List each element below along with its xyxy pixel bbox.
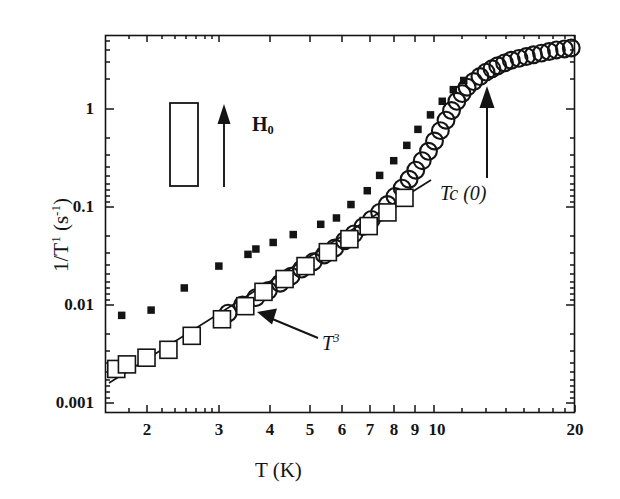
data-point bbox=[138, 349, 155, 366]
data-point bbox=[360, 218, 377, 235]
data-point bbox=[276, 271, 293, 288]
y-axis-unit-close: ) bbox=[49, 198, 73, 205]
x-tick-label-7: 7 bbox=[366, 420, 375, 440]
x-tick-label-6: 6 bbox=[338, 420, 347, 440]
t-cubed-annotation-arrow bbox=[257, 309, 318, 339]
x-axis-title: T (K) bbox=[255, 458, 302, 483]
tc-annotation-label: Tc (0) bbox=[440, 182, 486, 205]
y-tick-label-1: 1 bbox=[52, 99, 94, 119]
x-tick-label-20: 20 bbox=[567, 420, 584, 440]
t-cubed-base: T bbox=[322, 332, 333, 354]
data-point bbox=[289, 231, 297, 239]
x-tick-label-10: 10 bbox=[429, 420, 446, 440]
data-point bbox=[341, 231, 358, 248]
data-point bbox=[269, 239, 277, 247]
y-axis-title-main: 1/T bbox=[49, 243, 73, 272]
data-point bbox=[319, 244, 336, 261]
tc-annotation-arrow bbox=[480, 86, 495, 178]
inset-field-arrow-head bbox=[218, 104, 231, 124]
y-tick-label-0-001: 0.001 bbox=[8, 393, 94, 413]
t-cubed-exponent: 3 bbox=[333, 331, 339, 345]
data-point bbox=[438, 112, 455, 129]
field-label-subscript: 0 bbox=[268, 123, 274, 137]
data-point bbox=[118, 312, 126, 320]
x-tick-label-2: 2 bbox=[143, 420, 152, 440]
data-point bbox=[376, 172, 384, 180]
data-point bbox=[160, 341, 177, 358]
x-tick-label-3: 3 bbox=[215, 420, 224, 440]
field-annotation-label: H0 bbox=[252, 113, 274, 138]
data-point bbox=[237, 298, 254, 315]
data-point bbox=[414, 126, 422, 134]
inset-sample-rect bbox=[170, 103, 198, 186]
figure-panel: 2 3 4 5 6 7 8 9 10 20 1 0.1 0.01 0.001 1… bbox=[0, 0, 620, 499]
data-point bbox=[403, 142, 411, 150]
data-point bbox=[317, 221, 325, 229]
data-point bbox=[460, 77, 468, 85]
data-point bbox=[333, 214, 341, 222]
data-point bbox=[297, 258, 314, 275]
data-point bbox=[439, 98, 447, 106]
t-cubed-annotation-label: T3 bbox=[322, 331, 339, 355]
field-label-main: H bbox=[252, 113, 268, 135]
data-point bbox=[364, 187, 372, 195]
data-point bbox=[379, 204, 396, 221]
data-point bbox=[147, 306, 155, 314]
y-axis-title-superscript: 1 bbox=[48, 236, 63, 243]
data-point bbox=[244, 251, 252, 258]
data-point bbox=[252, 245, 260, 253]
inset-sample-geometry bbox=[170, 103, 231, 187]
data-point bbox=[181, 284, 189, 292]
data-point bbox=[347, 201, 355, 209]
data-point bbox=[255, 283, 272, 300]
y-axis-unit-open: (s bbox=[49, 216, 73, 236]
x-tick-label-8: 8 bbox=[390, 420, 399, 440]
data-point bbox=[215, 262, 223, 270]
data-point bbox=[396, 189, 413, 206]
x-tick-label-4: 4 bbox=[266, 420, 275, 440]
data-point bbox=[183, 327, 200, 344]
series-open-squares bbox=[108, 189, 413, 377]
data-point bbox=[390, 157, 398, 165]
data-point bbox=[213, 311, 230, 328]
y-axis-title: 1/T1 (s-1) bbox=[48, 140, 74, 330]
x-tick-label-9: 9 bbox=[411, 420, 420, 440]
y-axis-unit-superscript: -1 bbox=[48, 205, 63, 216]
data-point bbox=[118, 356, 135, 373]
data-point bbox=[427, 111, 435, 119]
x-tick-label-5: 5 bbox=[306, 420, 315, 440]
series-open-circles bbox=[220, 40, 580, 322]
data-point bbox=[450, 86, 458, 94]
